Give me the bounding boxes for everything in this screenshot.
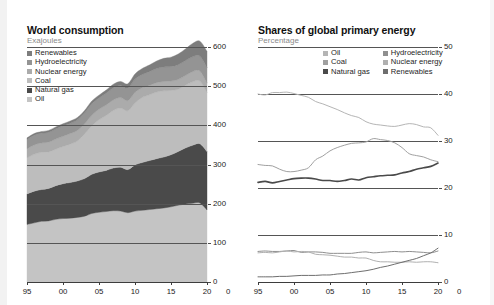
x-axis-tick-label: 20: [199, 287, 215, 296]
line-oil: [258, 92, 438, 135]
x-axis-tick-label: 95: [19, 287, 35, 296]
y-axis-tick-label: 400: [213, 120, 226, 129]
right-chart-plot: 010203040509500051015200: [258, 47, 438, 282]
x-tickmark: [402, 282, 403, 285]
gridline-y: [27, 125, 207, 126]
chart-page: World consumption Exajoules RenewablesHy…: [0, 0, 494, 305]
x-axis-zero-label: 0: [457, 287, 461, 296]
x-tickmark: [135, 282, 136, 285]
line-nuclear-energy: [258, 251, 438, 263]
y-axis-tick-label: 40: [444, 89, 453, 98]
gridline-y: [27, 204, 207, 205]
y-tickmark: [208, 204, 211, 205]
gridline-y: [27, 243, 207, 244]
y-axis-tick-label: 100: [213, 238, 226, 247]
y-axis-tick-label: 10: [444, 230, 453, 239]
line-coal: [258, 139, 438, 172]
x-axis-tick-label: 05: [91, 287, 107, 296]
y-tickmark: [208, 47, 211, 48]
y-axis-tick-label: 600: [213, 42, 226, 51]
y-tickmark: [439, 47, 442, 48]
y-axis-tick-label: 0: [444, 277, 448, 286]
x-tickmark: [258, 282, 259, 285]
y-tickmark: [208, 243, 211, 244]
y-axis-tick-label: 30: [444, 136, 453, 145]
x-axis-tick-label: 00: [286, 287, 302, 296]
y-axis-tick-label: 50: [444, 42, 453, 51]
x-tickmark: [171, 282, 172, 285]
y-tickmark: [439, 188, 442, 189]
panel-world-consumption: World consumption Exajoules RenewablesHy…: [0, 0, 247, 305]
line-renewables: [258, 248, 438, 277]
y-tickmark: [208, 282, 211, 283]
x-axis-tick-label: 15: [163, 287, 179, 296]
x-axis-tick-label: 10: [127, 287, 143, 296]
gridline-y: [27, 86, 207, 87]
x-axis-tick-label: 15: [394, 287, 410, 296]
x-tickmark: [207, 282, 208, 285]
y-axis-tick-label: 300: [213, 160, 226, 169]
x-axis-line: [27, 282, 207, 283]
x-axis-tick-label: 95: [250, 287, 266, 296]
left-chart-subtitle: Exajoules: [27, 36, 62, 45]
x-tickmark: [330, 282, 331, 285]
x-axis-line: [258, 282, 438, 283]
x-axis-tick-label: 00: [55, 287, 71, 296]
y-tickmark: [439, 282, 442, 283]
y-tickmark: [208, 86, 211, 87]
panel-shares-of-global-primary-energy: Shares of global primary energy Percenta…: [247, 0, 494, 305]
left-chart-plot: 01002003004005006009500051015200: [27, 47, 207, 282]
y-tickmark: [439, 94, 442, 95]
x-tickmark: [438, 282, 439, 285]
y-tickmark: [439, 235, 442, 236]
gridline-y: [27, 47, 207, 48]
line-series-group: [258, 47, 438, 282]
y-axis-tick-label: 200: [213, 199, 226, 208]
line-natural-gas: [258, 163, 438, 183]
x-axis-tick-label: 10: [358, 287, 374, 296]
right-chart-subtitle: Percentage: [258, 36, 299, 45]
x-axis-tick-label: 05: [322, 287, 338, 296]
x-tickmark: [294, 282, 295, 285]
x-axis-tick-label: 20: [430, 287, 446, 296]
right-chart-title: Shares of global primary energy: [258, 25, 415, 36]
x-tickmark: [99, 282, 100, 285]
x-tickmark: [63, 282, 64, 285]
gridline-y: [27, 165, 207, 166]
y-axis-tick-label: 0: [213, 277, 217, 286]
left-chart-title: World consumption: [27, 25, 124, 36]
y-tickmark: [439, 141, 442, 142]
y-tickmark: [208, 165, 211, 166]
x-tickmark: [366, 282, 367, 285]
y-axis-tick-label: 20: [444, 183, 453, 192]
y-tickmark: [208, 125, 211, 126]
y-axis-tick-label: 500: [213, 81, 226, 90]
x-axis-zero-label: 0: [226, 287, 230, 296]
x-tickmark: [27, 282, 28, 285]
